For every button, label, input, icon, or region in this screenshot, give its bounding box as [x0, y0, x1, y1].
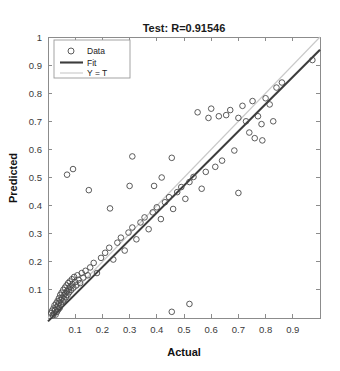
- y-tick-label: 0.6: [29, 144, 42, 155]
- y-tick-label: 0.2: [29, 256, 42, 267]
- x-tick-label: 0.1: [69, 324, 82, 335]
- y-tick-label: 0.5: [29, 172, 42, 183]
- y-axis-label: Predicted: [7, 153, 19, 203]
- y-tick-label: 0.9: [29, 60, 42, 71]
- y-tick-label: 0.7: [29, 116, 42, 127]
- x-tick-label: 0.9: [286, 324, 299, 335]
- y-tick-label: 0.4: [29, 200, 42, 211]
- y-tick-label: 0.8: [29, 88, 42, 99]
- x-axis-label: Actual: [167, 346, 201, 358]
- regression-plot-figure: Test: R=0.91546 0.10.20.30.40.50.60.70.8…: [0, 0, 340, 371]
- page-title: Test: R=0.91546: [143, 22, 226, 34]
- legend-item-label-data: Data: [87, 46, 105, 56]
- y-tick-label: 0.1: [29, 284, 42, 295]
- plot-canvas: Test: R=0.91546 0.10.20.30.40.50.60.70.8…: [0, 0, 340, 371]
- x-tick-label: 0.4: [150, 324, 163, 335]
- legend-item-label-yt: Y = T: [87, 68, 107, 78]
- x-tick-label: 0.7: [232, 324, 245, 335]
- legend: Data Fit Y = T: [54, 40, 130, 78]
- y-tick-label: 0.3: [29, 228, 42, 239]
- x-tick-label: 0.6: [205, 324, 218, 335]
- x-tick-label: 0.5: [177, 324, 190, 335]
- x-tick-label: 0.2: [96, 324, 109, 335]
- x-tick-label: 0.8: [259, 324, 272, 335]
- legend-item-label-fit: Fit: [87, 58, 97, 68]
- y-tick-label: 1: [37, 32, 42, 43]
- x-tick-label: 0.3: [123, 324, 136, 335]
